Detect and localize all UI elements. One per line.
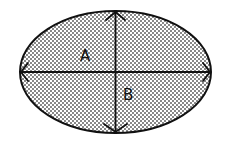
label-a: A xyxy=(80,47,91,65)
ellipse-diagram: A B xyxy=(0,0,235,165)
label-b: B xyxy=(123,86,133,104)
